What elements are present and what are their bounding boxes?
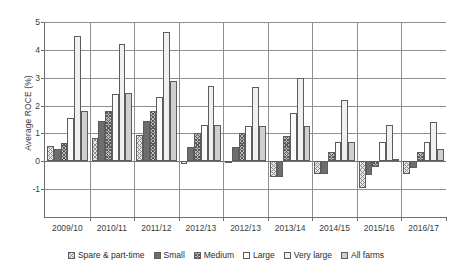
bar xyxy=(143,121,150,161)
bar xyxy=(304,126,311,161)
bar xyxy=(277,161,284,176)
bar xyxy=(417,152,424,162)
bar xyxy=(239,133,246,161)
bar xyxy=(112,94,119,161)
bar xyxy=(372,161,379,167)
bar xyxy=(105,111,112,161)
x-tick-mark xyxy=(312,217,313,221)
bar xyxy=(393,159,400,162)
legend-label: Medium xyxy=(204,250,234,260)
bar xyxy=(328,152,335,162)
bar-group xyxy=(223,22,268,217)
x-tick-label: 2010/11 xyxy=(97,223,127,233)
bar xyxy=(150,111,157,161)
bar xyxy=(194,133,201,161)
y-tick-mark xyxy=(41,22,45,23)
chart-legend: Spare & part-timeSmallMediumLargeVery la… xyxy=(0,250,452,260)
bar-group xyxy=(357,22,402,217)
bar xyxy=(297,78,304,162)
bar xyxy=(47,146,54,161)
x-tick-label: 2011/12 xyxy=(141,223,171,233)
y-tick-label: 2 xyxy=(35,101,40,111)
bar xyxy=(125,93,132,161)
bar-group xyxy=(312,22,357,217)
legend-label: Small xyxy=(164,250,185,260)
legend-item[interactable]: Small xyxy=(154,250,185,260)
bar xyxy=(252,87,259,161)
legend-swatch-icon xyxy=(341,252,348,259)
bar-group xyxy=(401,22,446,217)
x-tick-label: 2016/17 xyxy=(408,223,439,233)
bar xyxy=(379,142,386,162)
bar xyxy=(54,149,61,162)
bar xyxy=(321,161,328,174)
bar xyxy=(67,118,74,161)
plot-area: 2009/102010/112011/122012/132012/132013/… xyxy=(44,22,446,218)
bar xyxy=(208,86,215,161)
bar-group xyxy=(134,22,179,217)
legend-swatch-icon xyxy=(194,252,201,259)
y-tick-label: 1 xyxy=(35,128,40,138)
bar xyxy=(156,97,163,161)
legend-swatch-icon xyxy=(243,252,250,259)
bar xyxy=(348,142,355,162)
bar-group xyxy=(90,22,135,217)
bar xyxy=(341,100,348,161)
bar xyxy=(366,161,373,175)
bar xyxy=(136,135,143,161)
bar xyxy=(214,125,221,161)
legend-label: Very large xyxy=(294,250,332,260)
bar xyxy=(163,32,170,162)
legend-item[interactable]: All farms xyxy=(341,250,384,260)
x-tick-mark xyxy=(134,217,135,221)
y-tick-mark xyxy=(41,133,45,134)
x-tick-mark xyxy=(357,217,358,221)
y-tick-mark xyxy=(41,106,45,107)
x-tick-mark xyxy=(446,217,447,221)
bar xyxy=(290,113,297,162)
x-tick-mark xyxy=(401,217,402,221)
roce-bar-chart: Average ROCE (%) 2009/102010/112011/1220… xyxy=(0,0,452,275)
bar xyxy=(430,122,437,161)
legend-item[interactable]: Spare & part-time xyxy=(68,250,145,260)
legend-label: Spare & part-time xyxy=(78,250,145,260)
bar xyxy=(424,142,431,162)
bar xyxy=(410,161,417,168)
y-tick-label: 0 xyxy=(35,156,40,166)
x-tick-mark xyxy=(268,217,269,221)
bar xyxy=(201,125,208,161)
x-tick-mark xyxy=(90,217,91,221)
bar xyxy=(92,138,99,162)
bar-group xyxy=(45,22,90,217)
bar xyxy=(283,136,290,161)
legend-item[interactable]: Medium xyxy=(194,250,234,260)
y-tick-label: -1 xyxy=(32,184,40,194)
bar xyxy=(119,44,126,161)
bar xyxy=(170,81,177,162)
y-tick-label: 4 xyxy=(35,45,40,55)
y-tick-mark xyxy=(41,78,45,79)
y-tick-mark xyxy=(41,189,45,190)
bar xyxy=(81,111,88,161)
bar-groups xyxy=(45,22,446,217)
bar xyxy=(259,126,266,161)
y-tick-mark xyxy=(41,161,45,162)
y-tick-label: 5 xyxy=(35,17,40,27)
bar xyxy=(61,143,68,161)
legend-item[interactable]: Large xyxy=(243,250,275,260)
bar xyxy=(187,147,194,161)
bar xyxy=(98,121,105,161)
legend-swatch-icon xyxy=(68,252,75,259)
x-tick-label: 2012/13 xyxy=(186,223,217,233)
bar xyxy=(232,147,239,161)
bar xyxy=(314,161,321,174)
legend-swatch-icon xyxy=(284,252,291,259)
legend-item[interactable]: Very large xyxy=(284,250,332,260)
x-tick-label: 2014/15 xyxy=(319,223,350,233)
bar xyxy=(270,161,277,176)
legend-label: Large xyxy=(253,250,275,260)
bar-group xyxy=(179,22,224,217)
x-tick-mark xyxy=(179,217,180,221)
bar xyxy=(403,161,410,174)
bar xyxy=(386,125,393,161)
